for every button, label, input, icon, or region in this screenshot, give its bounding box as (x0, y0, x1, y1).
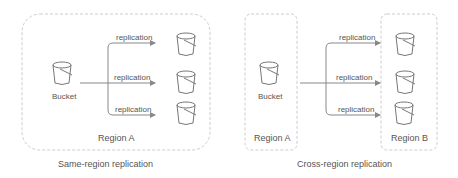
caption-same-region: Same-region replication (58, 159, 153, 169)
bucket-icon (395, 102, 414, 125)
region-a-label: Region A (254, 133, 291, 143)
caption-cross-region: Cross-region replication (297, 159, 392, 169)
bucket-icon (53, 62, 72, 85)
replication-label-middle: replication (336, 73, 372, 82)
replication-label-middle: replication (114, 73, 150, 82)
region-b-label: Region B (391, 133, 428, 143)
bucket-icon (177, 71, 196, 94)
bucket-icon (260, 62, 279, 85)
region-b-box (381, 14, 437, 150)
bucket-icon (396, 71, 415, 94)
source-bucket-label: Bucket (258, 92, 282, 101)
replication-label-top: replication (116, 33, 152, 42)
bucket-icon (177, 33, 196, 56)
replication-label-top: replication (339, 33, 375, 42)
bucket-icon (177, 102, 196, 125)
bucket-icon (396, 33, 415, 56)
region-label: Region A (98, 133, 135, 143)
diagram-canvas (0, 0, 458, 178)
region-a-box-cross (245, 14, 297, 150)
replication-label-bottom: replication (115, 105, 151, 114)
replication-label-bottom: replication (338, 105, 374, 114)
source-bucket-label: Bucket (52, 92, 76, 101)
